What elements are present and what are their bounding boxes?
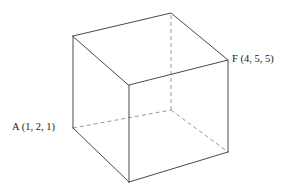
cube-svg-canvas xyxy=(0,0,295,191)
edge-bottom-front-to-bottom-right xyxy=(129,152,228,182)
hidden-edge-back-to-bottom-right xyxy=(171,110,228,152)
cube-bottom-edges xyxy=(73,128,228,182)
hidden-edge-a-to-back xyxy=(73,110,171,128)
cube-top-face xyxy=(73,13,228,85)
cube-diagram-figure: A (1, 2, 1) F (4, 5, 5) xyxy=(0,0,295,191)
vertex-label-f: F (4, 5, 5) xyxy=(232,54,274,65)
edge-a-to-bottom-front xyxy=(73,128,129,182)
vertex-label-a: A (1, 2, 1) xyxy=(12,122,55,133)
